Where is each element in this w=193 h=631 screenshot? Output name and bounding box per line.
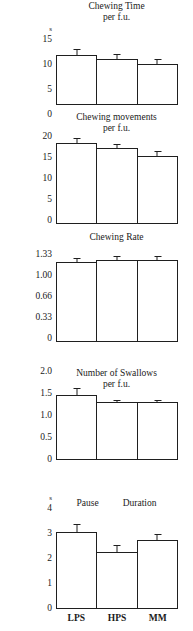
- y-axis-unit-pause-duration: s: [0, 495, 52, 502]
- y-tick-label: 1.00: [0, 271, 52, 281]
- y-axis-number-of-swallows: 2.0 1.5 1.0 0.5 0: [0, 368, 52, 472]
- x-axis-line-pause-duration: [56, 608, 178, 609]
- error-bar-hps: [116, 256, 117, 261]
- y-tick-label: 4: [0, 504, 52, 514]
- bar-mm: [137, 402, 178, 460]
- bar-hps: [96, 148, 137, 224]
- y-axis-chewing-time: s 15 10 5 0: [0, 26, 52, 105]
- chart-title-line1: Chewing movements: [76, 112, 156, 122]
- y-tick-label: 15: [0, 35, 52, 45]
- x-axis-line-number-of-swallows: [56, 459, 178, 460]
- y-tick-label: 3: [0, 529, 52, 539]
- bar-lps: [56, 395, 97, 460]
- bar-group-chewing-time: [56, 30, 178, 105]
- error-bar-hps: [116, 144, 117, 149]
- bar-group-number-of-swallows: [56, 386, 178, 460]
- y-tick-label: 1.33: [0, 250, 52, 260]
- error-bar-mm: [157, 256, 158, 261]
- chart-title-pause: Pause: [77, 498, 99, 509]
- y-tick-label: 1.5: [0, 389, 52, 399]
- y-tick-label: 5: [0, 195, 52, 205]
- y-tick-label: 1.0: [0, 411, 52, 421]
- y-tick-label: 0.33: [0, 313, 52, 323]
- error-bar-mm: [157, 534, 158, 541]
- bar-hps: [96, 260, 137, 342]
- plot-area-chewing-time: [56, 30, 178, 105]
- y-tick-label: 0: [0, 334, 52, 344]
- plot-area-pause-duration: [56, 509, 178, 609]
- error-bar-hps: [116, 545, 117, 553]
- bar-mm: [137, 540, 178, 609]
- bar-hps: [96, 402, 137, 460]
- bar-lps: [56, 55, 97, 105]
- y-tick-label: 0: [0, 455, 52, 465]
- chart-panel-chewing-movements: Chewing movements per f.u. 20 15 10 5 0: [0, 112, 193, 230]
- x-axis-label-hps: HPS: [97, 613, 138, 623]
- x-axis-line-chewing-rate: [56, 341, 178, 342]
- y-tick-label: 10: [0, 174, 52, 184]
- bar-group-chewing-movements: [56, 137, 178, 224]
- bar-lps: [56, 262, 97, 342]
- y-tick-label: 15: [0, 153, 52, 163]
- chart-panel-chewing-rate: Chewing Rate 1.33 1.00 0.66 0.33 0: [0, 232, 193, 345]
- y-axis-unit-chewing-time: s: [0, 26, 52, 33]
- error-bar-lps: [76, 49, 77, 56]
- y-tick-label: 10: [0, 60, 52, 69]
- bar-lps: [56, 532, 97, 609]
- x-axis-label-mm: MM: [137, 613, 178, 623]
- error-bar-mm: [157, 400, 158, 403]
- x-axis-line-chewing-time: [56, 104, 178, 105]
- bar-mm: [137, 156, 178, 224]
- chart-title-line2: per f.u.: [40, 123, 193, 134]
- bar-mm: [137, 64, 178, 105]
- chewing-behaviour-figure: Chewing Time per f.u. s 15 10 5 0: [0, 0, 193, 631]
- y-tick-label: 0: [0, 604, 52, 614]
- error-bar-hps: [116, 400, 117, 403]
- chart-title-duration: Duration: [123, 498, 157, 509]
- y-axis-chewing-movements: 20 15 10 5 0: [0, 134, 52, 224]
- plot-area-chewing-movements: [56, 137, 178, 224]
- y-tick-label: 0.5: [0, 433, 52, 443]
- y-tick-label: 2: [0, 554, 52, 564]
- x-axis-labels: LPS HPS MM: [56, 613, 178, 623]
- chart-panel-chewing-time: Chewing Time per f.u. s 15 10 5 0: [0, 0, 193, 110]
- plot-area-number-of-swallows: [56, 386, 178, 460]
- chart-title-chewing-rate: Chewing Rate: [40, 232, 193, 243]
- y-axis-chewing-rate: 1.33 1.00 0.66 0.33 0: [0, 252, 52, 342]
- x-axis-line-chewing-movements: [56, 223, 178, 224]
- y-tick-label: 5: [0, 85, 52, 95]
- error-bar-lps: [76, 258, 77, 263]
- y-tick-label: 2.0: [0, 367, 52, 377]
- error-bar-lps: [76, 524, 77, 533]
- error-bar-mm: [157, 151, 158, 157]
- chart-title-line1: Chewing Rate: [89, 232, 143, 242]
- bar-mm: [137, 260, 178, 342]
- plot-area-chewing-rate: [56, 255, 178, 342]
- chart-title-chewing-movements: Chewing movements per f.u.: [40, 112, 193, 133]
- x-axis-label-lps: LPS: [56, 613, 97, 623]
- chart-title-pause-duration: Pause Duration: [40, 498, 193, 509]
- error-bar-mm: [157, 59, 158, 65]
- error-bar-lps: [76, 138, 77, 144]
- y-tick-label: 0.66: [0, 292, 52, 302]
- chart-title-line1: Chewing Time: [88, 1, 144, 11]
- error-bar-lps: [76, 388, 77, 396]
- y-tick-label: 1: [0, 579, 52, 589]
- chart-panel-number-of-swallows: Number of Swallows per f.u. 2.0 1.5 1.0 …: [0, 360, 193, 478]
- bar-lps: [56, 143, 97, 224]
- y-tick-label: 0: [0, 216, 52, 226]
- bar-hps: [96, 59, 137, 105]
- error-bar-hps: [116, 54, 117, 60]
- bar-group-chewing-rate: [56, 255, 178, 342]
- chart-title-line2: per f.u.: [40, 12, 193, 23]
- y-axis-pause-duration: s 4 3 2 1 0: [0, 493, 52, 605]
- chart-title-line1: Number of Swallows: [76, 368, 157, 378]
- y-tick-label: 20: [0, 132, 52, 142]
- bar-group-pause-duration: [56, 509, 178, 609]
- bar-hps: [96, 552, 137, 609]
- chart-title-chewing-time: Chewing Time per f.u.: [40, 1, 193, 22]
- chart-panel-pause-duration: Pause Duration s 4 3 2 1 0: [0, 485, 193, 631]
